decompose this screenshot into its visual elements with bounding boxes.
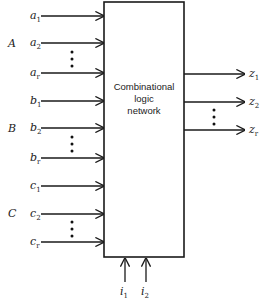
ellipsis-a	[71, 51, 74, 68]
svg-text:b1: b1	[30, 94, 42, 109]
input-b1: b1	[30, 94, 104, 109]
group-label-c: C	[8, 207, 17, 220]
svg-text:a1: a1	[30, 9, 41, 24]
input-b2: b2	[30, 121, 104, 136]
input-a2: a2	[30, 36, 104, 51]
ellipsis-c	[71, 221, 74, 238]
svg-text:cr: cr	[30, 235, 40, 250]
input-cr: cr	[30, 235, 104, 250]
control-input-i1: i1	[120, 258, 128, 299]
svg-text:b2: b2	[30, 121, 42, 136]
block-label-line-1: Combinational	[114, 81, 175, 92]
svg-text:ar: ar	[30, 66, 41, 81]
output-z1: z1	[184, 67, 259, 82]
output-zr: zr	[184, 123, 259, 138]
input-ar: ar	[30, 66, 104, 81]
svg-text:br: br	[30, 151, 41, 166]
group-label-a: A	[7, 37, 16, 50]
block-label-line-2: logic	[134, 93, 154, 104]
ellipsis-b	[71, 136, 74, 153]
block-label-line-3: network	[127, 105, 161, 116]
ellipsis-z	[213, 109, 216, 126]
control-input-i2: i2	[141, 258, 149, 299]
svg-text:a2: a2	[30, 36, 41, 51]
svg-text:c2: c2	[30, 207, 41, 222]
input-c2: c2	[30, 207, 104, 222]
logic-network-block	[104, 2, 184, 257]
svg-text:i2: i2	[141, 285, 149, 299]
svg-text:i1: i1	[120, 285, 128, 299]
input-c1: c1	[30, 179, 104, 194]
group-label-b: B	[7, 122, 16, 135]
combinational-network-diagram: Combinational logic network A a1 a2 ar B…	[0, 0, 267, 299]
svg-text:c1: c1	[30, 179, 41, 194]
output-z2: z2	[184, 95, 259, 110]
input-a1: a1	[30, 9, 104, 24]
svg-text:zr: zr	[248, 123, 259, 138]
svg-text:z1: z1	[248, 67, 259, 82]
svg-text:z2: z2	[248, 95, 259, 110]
input-br: br	[30, 151, 104, 166]
